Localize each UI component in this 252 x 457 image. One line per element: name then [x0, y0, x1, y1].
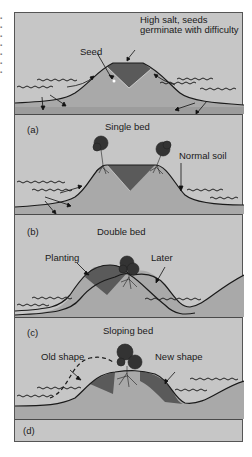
panel-title-single-bed: Single bed	[105, 122, 150, 132]
panel-seed-salt: Seed High salt, seeds germinate with dif…	[15, 13, 242, 114]
annotation-normal-soil: Normal soil	[179, 151, 227, 161]
panel-label-b: (b)	[27, 227, 39, 237]
panel-single-bed: (a) Single bed Normal soil	[15, 115, 242, 214]
seed-dot	[113, 80, 116, 83]
panel-title-sloping-bed: Sloping bed	[103, 326, 153, 336]
panel-label-c: (c)	[27, 328, 38, 338]
figure-frame: Seed High salt, seeds germinate with dif…	[14, 12, 243, 442]
panel-title-double-bed: Double bed	[97, 227, 146, 237]
annotation-seed: Seed	[80, 47, 102, 57]
annotation-new-shape: New shape	[155, 352, 203, 362]
panel-label-d: (d)	[23, 426, 35, 436]
annotation-high-salt: High salt, seeds germinate with difficul…	[140, 15, 240, 35]
cropped-text-fragment: ▪▪▪▪▪▪▪	[0, 14, 4, 77]
annotation-planting: Planting	[45, 253, 79, 263]
panel-double-bed: (b) Double bed Planting Later	[15, 215, 242, 317]
panel-sloping-bed: (c) Sloping bed Old shape New shape	[15, 318, 242, 419]
panel-d: (d)	[15, 420, 242, 442]
annotation-old-shape: Old shape	[41, 352, 84, 362]
panel-label-a: (a)	[27, 125, 39, 135]
annotation-later: Later	[151, 253, 173, 263]
